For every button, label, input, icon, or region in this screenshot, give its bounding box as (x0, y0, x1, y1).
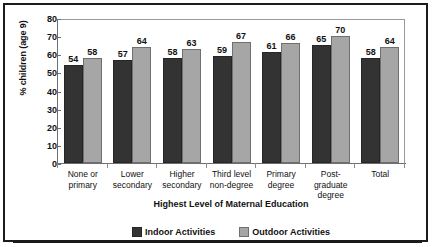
x-category-label-line: graduate (307, 180, 355, 191)
bar-wrapper: 58 (83, 19, 102, 163)
bar-indoor[interactable] (163, 58, 182, 163)
x-tick-mark (206, 163, 207, 168)
bar-wrapper: 59 (213, 19, 232, 163)
bar-group: 5764 (108, 19, 158, 163)
x-tick-mark (305, 163, 306, 168)
bar-wrapper: 65 (312, 19, 331, 163)
x-tick-mark (404, 163, 405, 168)
y-tick-mark (57, 19, 61, 20)
y-axis-ticks: 80706050403020100 (5, 5, 57, 247)
bar-outdoor[interactable] (281, 43, 300, 163)
bar-value-label: 64 (137, 36, 147, 46)
legend-swatch-outdoor (239, 227, 249, 237)
bar-outdoor[interactable] (380, 47, 399, 163)
legend-label: Indoor Activities (145, 227, 215, 237)
legend-item[interactable]: Outdoor Activities (239, 227, 330, 237)
bar-value-label: 64 (385, 36, 395, 46)
x-category-label-line: Post- (307, 169, 355, 180)
y-tick-label: 50 (13, 68, 57, 78)
y-tick-label: 10 (13, 141, 57, 151)
bar-indoor[interactable] (64, 65, 83, 163)
y-tick-label: 80 (13, 14, 57, 24)
x-axis-title: Highest Level of Maternal Education (57, 199, 405, 209)
x-category-label: Lowersecondary (108, 169, 158, 201)
bar-groups: 5458576458635967616665705864 (58, 19, 405, 163)
y-tick-label: 0 (13, 159, 57, 169)
y-tick-mark (57, 37, 61, 38)
y-tick-mark (57, 128, 61, 129)
x-axis-labels: None orprimaryLowersecondaryHighersecond… (58, 169, 405, 201)
bar-value-label: 63 (186, 38, 196, 48)
bar-wrapper: 63 (182, 19, 201, 163)
bar-wrapper: 54 (64, 19, 83, 163)
x-category-label-line: Higher (158, 169, 206, 180)
x-tick-mark (354, 163, 355, 168)
y-tick-mark (57, 73, 61, 74)
y-tick-mark (57, 55, 61, 56)
bar-value-label: 59 (217, 45, 227, 55)
bar-wrapper: 58 (163, 19, 182, 163)
bar-outdoor[interactable] (132, 47, 151, 163)
x-tick-mark (255, 163, 256, 168)
bar-value-label: 67 (236, 31, 246, 41)
bar-group: 5863 (157, 19, 207, 163)
x-category-label-line: degree (257, 180, 305, 191)
bar-group: 5864 (355, 19, 405, 163)
x-tick-mark (156, 163, 157, 168)
x-category-label: Third levelnon-degree (207, 169, 257, 201)
y-tick-label: 40 (13, 87, 57, 97)
y-tick-label: 70 (13, 32, 57, 42)
chart-frame: % children (age 9) 80706050403020100 545… (3, 3, 428, 242)
y-tick-mark (57, 92, 61, 93)
bar-value-label: 58 (366, 47, 376, 57)
chart-legend: Indoor ActivitiesOutdoor Activities (57, 227, 405, 237)
x-category-label-line: Lower (109, 169, 157, 180)
y-tick-label: 20 (13, 123, 57, 133)
bar-value-label: 65 (316, 34, 326, 44)
legend-swatch-indoor (132, 227, 142, 237)
bar-wrapper: 58 (361, 19, 380, 163)
bar-outdoor[interactable] (182, 49, 201, 163)
bar-indoor[interactable] (262, 52, 281, 163)
legend-item[interactable]: Indoor Activities (132, 227, 215, 237)
x-category-label-line: non-degree (208, 180, 256, 191)
bar-wrapper: 61 (262, 19, 281, 163)
bar-group: 5967 (207, 19, 257, 163)
x-category-label: Post-graduatedegree (306, 169, 356, 201)
bar-value-label: 57 (118, 49, 128, 59)
bar-outdoor[interactable] (331, 36, 350, 163)
bar-wrapper: 57 (113, 19, 132, 163)
bar-indoor[interactable] (312, 45, 331, 163)
bar-value-label: 66 (286, 32, 296, 42)
bar-outdoor[interactable] (232, 42, 251, 163)
x-category-label-line: None or (59, 169, 107, 180)
x-category-label-line: secondary (158, 180, 206, 191)
x-tick-mark (107, 163, 108, 168)
x-category-label-line: Total (356, 169, 404, 180)
x-category-label-line: Primary (257, 169, 305, 180)
bar-indoor[interactable] (361, 58, 380, 163)
bar-outdoor[interactable] (83, 58, 102, 163)
bar-group: 6166 (256, 19, 306, 163)
x-category-label: Total (355, 169, 405, 201)
y-tick-label: 30 (13, 105, 57, 115)
bar-value-label: 58 (167, 47, 177, 57)
bar-group: 5458 (58, 19, 108, 163)
bar-indoor[interactable] (113, 60, 132, 163)
bar-wrapper: 70 (331, 19, 350, 163)
bar-indoor[interactable] (213, 56, 232, 163)
bar-group: 6570 (306, 19, 356, 163)
bar-wrapper: 64 (380, 19, 399, 163)
y-tick-mark (57, 146, 61, 147)
x-category-label: None orprimary (58, 169, 108, 201)
bar-value-label: 58 (87, 47, 97, 57)
legend-divider (13, 241, 422, 243)
bar-value-label: 54 (68, 54, 78, 64)
x-category-label: Highersecondary (157, 169, 207, 201)
y-tick-mark (57, 110, 61, 111)
x-category-label-line: primary (59, 180, 107, 191)
bar-wrapper: 67 (232, 19, 251, 163)
y-tick-label: 60 (13, 50, 57, 60)
bar-wrapper: 66 (281, 19, 300, 163)
bar-value-label: 70 (335, 25, 345, 35)
